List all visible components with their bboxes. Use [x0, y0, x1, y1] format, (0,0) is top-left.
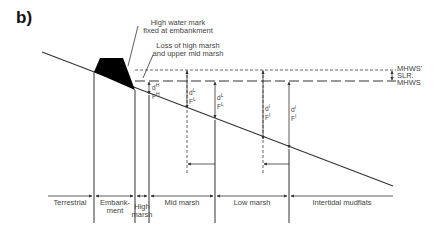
depth-label-mid-new: dL FL — [189, 87, 196, 105]
annotation-line: and upper mid marsh — [150, 50, 226, 58]
zone-intertidal-mudflats: Intertidal mudflats — [291, 199, 393, 207]
level-mhws: MHWS — [397, 79, 421, 87]
annotation-loss-of-marsh: Loss of high marsh and upper mid marsh — [150, 42, 226, 58]
zone-low-marsh: Low marsh — [217, 199, 287, 207]
freq-sup: H — [156, 91, 160, 97]
zone-terrestrial: Terrestrial — [48, 199, 92, 207]
depth-label-low-new: dI FI — [265, 103, 270, 121]
depth-sup: L — [193, 87, 196, 93]
freq-sup: L — [193, 96, 196, 102]
depth-label-high: dH FH — [152, 82, 160, 100]
zone-label-line: marsh — [128, 211, 156, 219]
freq-sup: L — [221, 101, 224, 107]
loss-pointer — [143, 55, 153, 78]
depth-label-mid: dL FL — [217, 92, 224, 110]
depth-sup: I — [269, 103, 270, 109]
depth-label-low: dI FI — [291, 104, 296, 122]
annotation-high-water-mark: High water mark fixed at embankment — [138, 19, 218, 35]
annotation-line: fixed at embankment — [138, 27, 218, 35]
depth-sup: I — [295, 104, 296, 110]
high-water-mark-pointer — [128, 26, 138, 66]
freq-sup: I — [295, 113, 296, 119]
depth-sup: L — [221, 92, 224, 98]
zone-mid-marsh: Mid marsh — [151, 199, 213, 207]
depth-sup: H — [156, 82, 160, 88]
freq-sup: I — [269, 112, 270, 118]
